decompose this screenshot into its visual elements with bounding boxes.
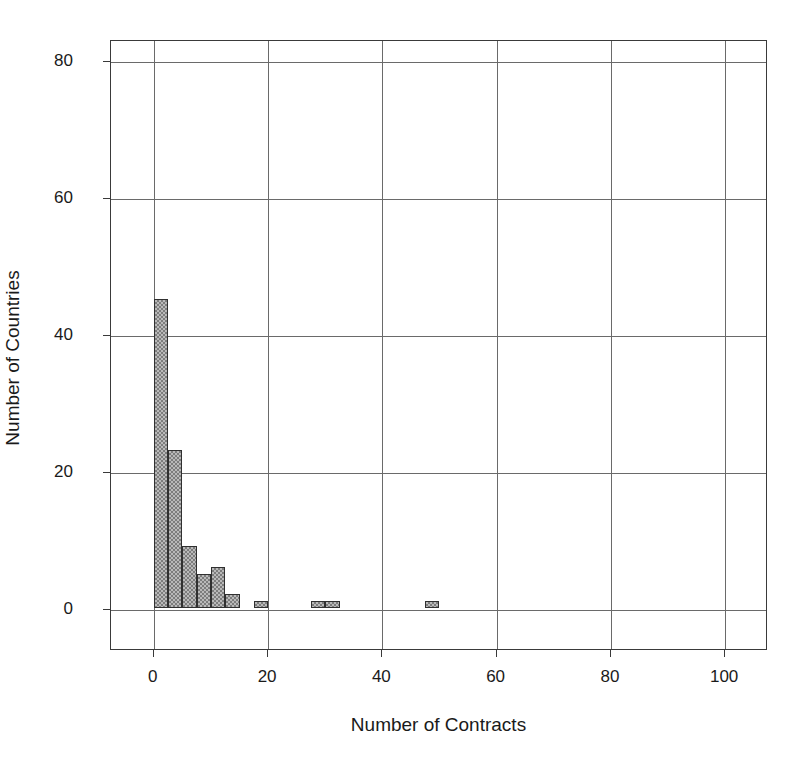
x-tick-100 [724,650,725,657]
histogram-bar [154,299,168,607]
histogram-bar [197,574,211,608]
plot-area [110,40,767,650]
histogram-bar [311,601,325,608]
histogram-bar [325,601,339,608]
x-tick-0 [153,650,154,657]
y-tick-label-20: 20 [54,463,73,480]
y-tick-40 [103,335,110,336]
x-tick-label-20: 20 [237,668,297,685]
x-tick-label-40: 40 [351,668,411,685]
y-tick-20 [103,472,110,473]
x-tick-label-0: 0 [123,668,183,685]
histogram-bar [425,601,439,608]
y-axis-title: Number of Countries [0,53,26,663]
x-tick-20 [267,650,268,657]
x-tick-label-60: 60 [466,668,526,685]
y-tick-60 [103,198,110,199]
x-tick-80 [610,650,611,657]
x-axis-title: Number of Contracts [110,714,767,736]
x-tick-label-100: 100 [694,668,754,685]
y-tick-label-60: 60 [54,189,73,206]
y-tick-80 [103,61,110,62]
histogram-bar [182,546,196,608]
histogram-bar [225,594,239,608]
histogram-bar [168,450,182,608]
histogram-bar [211,567,225,608]
y-tick-0 [103,609,110,610]
x-tick-40 [381,650,382,657]
histogram-bar [254,601,268,608]
x-tick-60 [496,650,497,657]
y-tick-label-0: 0 [64,600,73,617]
y-tick-label-40: 40 [54,326,73,343]
bar-series [111,41,766,649]
histogram-figure: Number of Countries 02040608002040608010… [0,0,795,781]
y-tick-label-80: 80 [54,52,73,69]
x-tick-label-80: 80 [580,668,640,685]
